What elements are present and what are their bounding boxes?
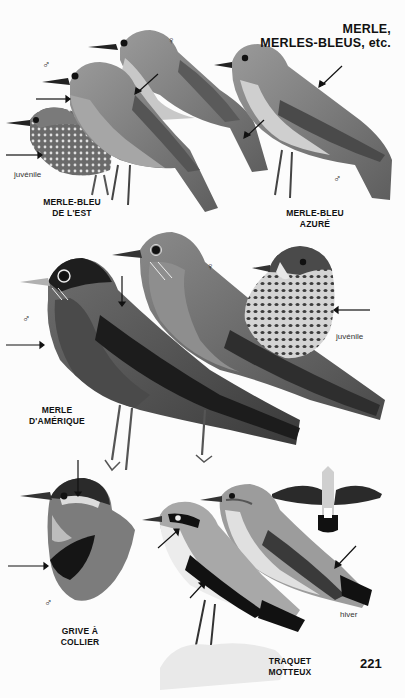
species-name-line1: GRIVE À xyxy=(50,626,110,637)
species-label-varied-thrush: GRIVE À COLLIER xyxy=(50,626,110,648)
male-symbol-eastern-bluebird: ♂ xyxy=(42,58,50,70)
female-symbol-american-robin: ♀ xyxy=(206,260,214,272)
species-name-line2: COLLIER xyxy=(50,637,110,648)
american-robin-juvenile-illustration xyxy=(245,246,335,358)
male-symbol-american-robin: ♂ xyxy=(22,312,30,324)
species-name-line1: MERLE-BLEU xyxy=(280,208,350,219)
species-label-mountain-bluebird: MERLE-BLEU AZURÉ xyxy=(280,208,350,230)
species-label-american-robin: MERLE D'AMÉRIQUE xyxy=(22,405,92,427)
bird-illustrations xyxy=(0,0,405,698)
species-name-line1: TRAQUET xyxy=(262,656,318,667)
female-symbol-eastern-bluebird: ♀ xyxy=(167,34,175,46)
male-symbol-mountain-bluebird: ♂ xyxy=(333,172,341,184)
species-name-line2: DE L'EST xyxy=(32,208,112,219)
page-title-line1: MERLE, xyxy=(260,22,391,36)
winter-label-wheatear: hiver xyxy=(340,610,357,619)
species-name-line2: D'AMÉRIQUE xyxy=(22,416,92,427)
page-title: MERLE, MERLES-BLEUS, etc. xyxy=(260,22,391,50)
juvenile-label-eastern-bluebird: juvénile xyxy=(14,170,41,179)
male-symbol-varied-thrush: ♂ xyxy=(44,596,52,608)
species-label-eastern-bluebird: MERLE-BLEU DE L'EST xyxy=(32,197,112,219)
species-name-line1: MERLE xyxy=(22,405,92,416)
page-number: 221 xyxy=(360,656,382,671)
species-name-line2: AZURÉ xyxy=(280,219,350,230)
varied-thrush-male-illustration xyxy=(20,478,135,601)
page-title-line2: MERLES-BLEUS, etc. xyxy=(260,36,391,50)
species-name-line1: MERLE-BLEU xyxy=(32,197,112,208)
species-label-wheatear: TRAQUET MOTTEUX xyxy=(262,656,318,678)
species-name-line2: MOTTEUX xyxy=(262,667,318,678)
juvenile-label-american-robin: juvénile xyxy=(336,332,363,341)
field-guide-page: MERLE, MERLES-BLEUS, etc. ♂ ♀ juvénile M… xyxy=(0,0,405,698)
